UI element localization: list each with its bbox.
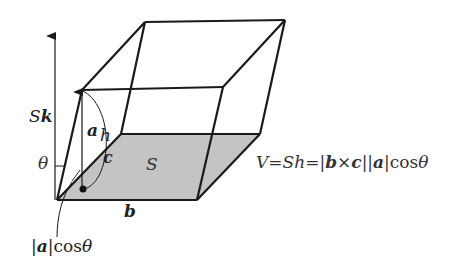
formula-cross: × bbox=[337, 152, 351, 172]
top-face bbox=[82, 20, 285, 90]
formula-equals: = bbox=[268, 152, 282, 172]
formula-theta: θ bbox=[418, 152, 428, 172]
formula-S: S bbox=[283, 152, 295, 172]
formula-b: b bbox=[325, 152, 337, 172]
parallelepiped-diagram: Sk a h c θ S b |a|cosθ V=Sh=|b×c||a|cosθ bbox=[0, 0, 463, 277]
sk-label-S: S bbox=[29, 106, 41, 126]
proj-a: a bbox=[37, 236, 48, 256]
formula-V: V bbox=[256, 152, 268, 172]
volume-formula: V=Sh=|b×c||a|cosθ bbox=[256, 154, 429, 171]
formula-equals: = bbox=[305, 152, 319, 172]
proj-theta: θ bbox=[82, 236, 92, 256]
b-label: b bbox=[124, 203, 136, 220]
formula-cos: cos bbox=[390, 152, 418, 172]
projection-label: |a|cosθ bbox=[31, 238, 92, 255]
sk-label: Sk bbox=[29, 108, 52, 125]
h-label: h bbox=[100, 127, 111, 144]
a-label: a bbox=[87, 122, 98, 139]
formula-c: c bbox=[351, 152, 361, 172]
cos-text: cos bbox=[53, 236, 81, 256]
S-label: S bbox=[146, 156, 158, 173]
formula-a: a bbox=[373, 152, 384, 172]
formula-h: h bbox=[294, 152, 305, 172]
sk-label-k: k bbox=[41, 106, 53, 126]
c-label: c bbox=[103, 150, 113, 166]
projection-foot-dot bbox=[80, 186, 87, 193]
theta-label: θ bbox=[38, 155, 48, 172]
